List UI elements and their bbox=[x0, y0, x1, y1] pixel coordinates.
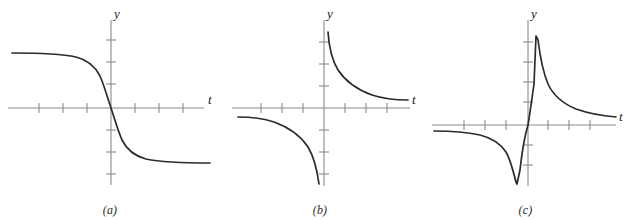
panel-b-plot: t y bbox=[220, 0, 420, 200]
x-axis-label: t bbox=[412, 92, 416, 107]
panel-b-caption: (b) bbox=[220, 203, 420, 218]
y-axis-label: y bbox=[325, 6, 333, 21]
curve-odd-spike bbox=[434, 36, 616, 184]
panel-a: t y (a) bbox=[0, 0, 220, 220]
figure-container: t y (a) bbox=[0, 0, 631, 220]
panel-b: t y (b) bbox=[220, 0, 420, 220]
x-axis-label: t bbox=[208, 92, 212, 107]
panel-a-caption: (a) bbox=[0, 203, 220, 218]
panel-a-plot: t y bbox=[0, 0, 220, 200]
panel-c-plot: t y bbox=[420, 0, 631, 200]
y-axis-label: y bbox=[112, 6, 120, 21]
x-axis-label: t bbox=[619, 109, 623, 124]
panel-c: t y (c) bbox=[420, 0, 631, 220]
curve-hyperbola-upper-branch bbox=[328, 32, 408, 100]
curve-hyperbola-lower-branch bbox=[238, 117, 319, 184]
y-axis-label: y bbox=[529, 6, 537, 21]
panel-c-caption: (c) bbox=[420, 203, 631, 218]
